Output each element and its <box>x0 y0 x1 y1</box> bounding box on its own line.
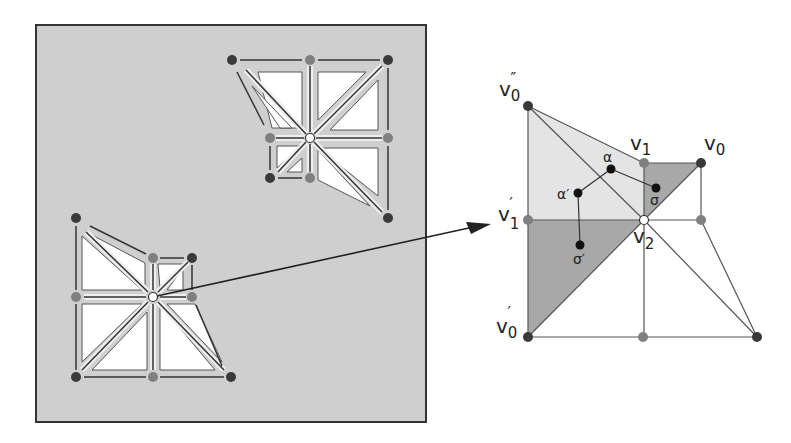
vertex-mid <box>305 55 315 65</box>
vertex-mid <box>383 133 393 143</box>
diagram-canvas: v0″ v1 v0 v1′ v2 v0′ α σ α′ σ′ <box>0 0 791 443</box>
label-sigma: σ <box>650 192 659 208</box>
node-sigma-prime <box>576 241 585 250</box>
vertex-dark <box>227 55 237 65</box>
vertex-center <box>306 134 315 143</box>
arrow-head-icon <box>466 222 491 234</box>
vertex-dark <box>226 372 236 382</box>
vertex-v0-double-prime <box>523 101 533 111</box>
vertex-dark <box>383 55 393 65</box>
label-sigma-prime: σ′ <box>573 251 585 267</box>
label-v0-double-prime: v0″ <box>499 70 520 105</box>
vertex-dark <box>71 213 81 223</box>
label-v0-prime: v0′ <box>496 304 517 342</box>
vertex-dark <box>265 173 275 183</box>
vertex-dark <box>383 213 393 223</box>
node-alpha-prime <box>574 189 583 198</box>
vertex-mid <box>265 133 275 143</box>
vertex-v0 <box>696 158 706 168</box>
vertex-mid <box>305 173 315 183</box>
vertex-dark <box>71 372 81 382</box>
label-v1-prime: v1′ <box>498 195 519 233</box>
vertex-v0-prime <box>523 332 533 342</box>
label-alpha: α <box>603 149 612 165</box>
vertex-bottom-mid <box>638 332 648 342</box>
vertex-dark <box>187 253 197 263</box>
vertex-v1 <box>639 158 649 168</box>
vertex-mid <box>148 372 158 382</box>
label-v1: v1 <box>630 131 651 159</box>
vertex-mid <box>187 292 197 302</box>
vertex-mid <box>71 292 81 302</box>
vertex-center <box>149 293 158 302</box>
vertex-right-mid <box>696 215 706 225</box>
vertex-v1-prime <box>523 215 533 225</box>
label-v0: v0 <box>704 131 725 159</box>
node-alpha <box>607 165 616 174</box>
label-alpha-prime: α′ <box>557 186 569 202</box>
detail-diagram: v0″ v1 v0 v1′ v2 v0′ α σ α′ σ′ <box>496 70 762 342</box>
vertex-bottom-right <box>752 332 762 342</box>
vertex-mid <box>148 253 158 263</box>
